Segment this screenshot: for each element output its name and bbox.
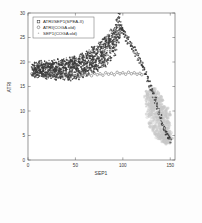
x-tick-label: 150	[166, 163, 174, 168]
chart-plot-area: 050100150 051015202530 SEP1 ATRI ATRI/SE…	[0, 0, 202, 223]
figure-canvas: 050100150 051015202530 SEP1 ATRI ATRI/SE…	[0, 0, 202, 223]
y-tick-label: 10	[20, 109, 26, 114]
y-tick-label: 20	[20, 60, 26, 65]
y-tick-label: 30	[20, 11, 26, 16]
x-tick-label: 100	[119, 163, 127, 168]
chart-legend: ATRI/SEP1(SPEA-II) ATRI(COGA old) SEP1(C…	[33, 17, 94, 38]
y-tick-label: 0	[22, 158, 25, 163]
x-tick-label: 50	[73, 163, 79, 168]
y-tick-label: 15	[20, 84, 26, 89]
x-axis-title: SEP1	[95, 170, 108, 176]
legend-label-1: ATRI(COGA old)	[43, 25, 76, 30]
legend-label-0: ATRI/SEP1(SPEA-II)	[43, 19, 84, 24]
y-tick-label: 25	[20, 35, 26, 40]
scatter-chart-svg: 050100150 051015202530 SEP1 ATRI ATRI/SE…	[0, 0, 202, 223]
y-axis-title: ATRI	[6, 81, 12, 92]
x-tick-label: 0	[27, 163, 30, 168]
legend-marker-dot-icon	[38, 32, 40, 34]
legend-label-2: SEP1(COGA old)	[43, 31, 77, 36]
y-tick-label: 5	[22, 133, 25, 138]
